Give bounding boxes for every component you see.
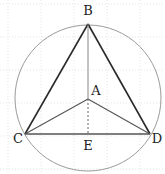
segment-bd [88,24,150,134]
diagram-canvas: A B C D E [0,0,165,174]
segment-bc [25,24,88,134]
label-point-d: D [152,131,162,146]
geometry-diagram: A B C D E [0,0,165,174]
label-point-a: A [90,83,101,98]
label-point-e: E [83,138,93,153]
label-point-c: C [13,131,23,146]
label-point-b: B [83,3,93,18]
